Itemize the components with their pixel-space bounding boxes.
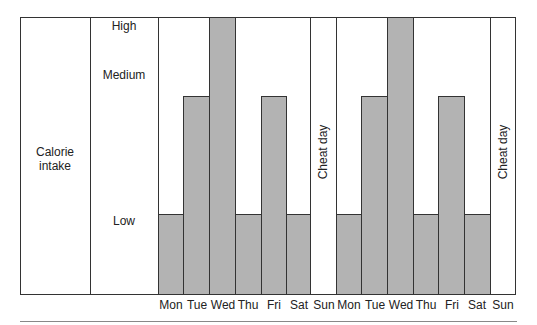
bar-fri-1 <box>261 96 287 295</box>
bar-tue-1 <box>183 96 210 295</box>
bar-mon-1 <box>158 214 184 295</box>
x-label: Mon <box>336 298 362 312</box>
bar-thu-1 <box>235 214 262 295</box>
x-label: Sun <box>311 298 337 312</box>
bottom-rule <box>20 321 517 322</box>
level-medium: Medium <box>90 68 158 82</box>
bar-sat-1 <box>286 214 311 295</box>
cheat-day-label-2: Cheat day <box>496 112 510 192</box>
level-high: High <box>90 19 158 33</box>
x-label: Mon <box>158 298 184 312</box>
x-label: Wed <box>388 298 414 312</box>
bar-wed-2 <box>387 17 414 295</box>
x-label: Fri <box>439 298 465 312</box>
x-label: Sat <box>464 298 490 312</box>
cheat-day-label-1: Cheat day <box>316 112 330 192</box>
x-label: Thu <box>413 298 439 312</box>
bar-tue-2 <box>361 96 388 295</box>
level-low: Low <box>90 214 158 228</box>
x-label: Sun <box>490 298 516 312</box>
x-label: Tue <box>362 298 388 312</box>
row-label-line-1: Calorie <box>20 145 90 159</box>
x-label: Thu <box>235 298 261 312</box>
x-label: Wed <box>210 298 236 312</box>
bar-thu-2 <box>413 214 439 295</box>
bar-fri-2 <box>438 96 465 295</box>
x-label: Sat <box>286 298 312 312</box>
bar-sat-2 <box>464 214 491 295</box>
bar-wed-1 <box>209 17 236 295</box>
divider-row-label <box>90 17 91 295</box>
row-label: Calorie intake <box>20 145 90 173</box>
row-label-line-2: intake <box>20 159 90 173</box>
x-label: Tue <box>184 298 210 312</box>
x-label: Fri <box>261 298 287 312</box>
bar-mon-2 <box>336 214 362 295</box>
